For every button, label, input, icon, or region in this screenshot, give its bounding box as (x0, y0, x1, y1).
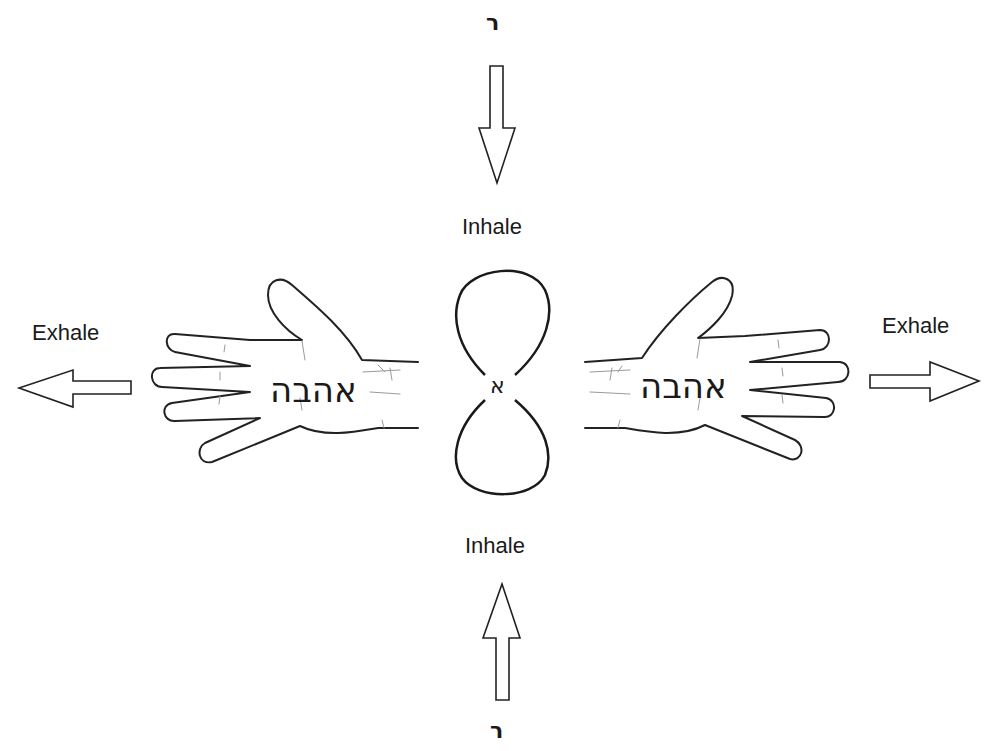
bottom-hebrew-glyph: ר (490, 718, 503, 743)
loop-upper-lobe (456, 271, 549, 375)
exhale-left-label: Exhale (32, 320, 99, 346)
loop-lower-lobe (456, 400, 548, 494)
top-hebrew-glyph: ר (486, 10, 499, 35)
right-hand-word: אהבה (640, 366, 727, 406)
exhale-left-arrow (19, 370, 131, 407)
exhale-right-label: Exhale (882, 313, 949, 339)
center-alef-glyph: א (490, 373, 505, 398)
inhale-top-arrow (479, 66, 515, 183)
left-hand-word: אהבה (270, 370, 357, 410)
breathing-diagram: ר Inhale א Inhale ר Exhale Exhale אהבה א… (0, 0, 994, 751)
inhale-bottom-label: Inhale (465, 533, 525, 559)
exhale-right-arrow (870, 362, 979, 401)
inhale-bottom-arrow (483, 584, 520, 700)
inhale-top-label: Inhale (462, 214, 522, 240)
